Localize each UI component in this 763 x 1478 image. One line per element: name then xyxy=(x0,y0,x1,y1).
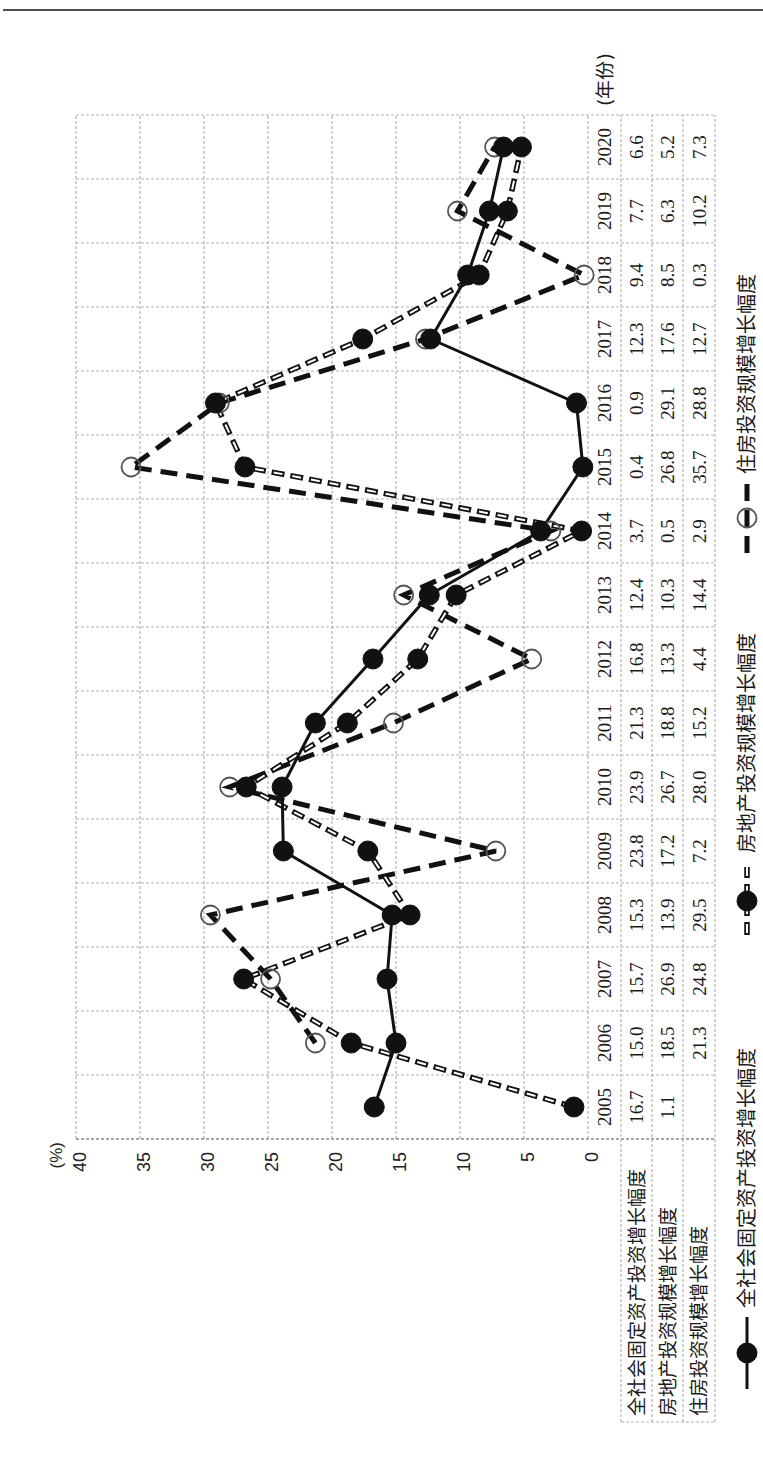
year-label: 2018 xyxy=(594,256,615,294)
table-cell: 15.2 xyxy=(689,706,710,739)
data-point-open-circle-icon xyxy=(384,714,403,733)
table-cell: 5.2 xyxy=(657,135,678,159)
table-cell: 12.3 xyxy=(626,322,647,355)
table-cell: 12.7 xyxy=(689,322,710,355)
table-cell: 26.7 xyxy=(657,770,678,803)
data-point-filled-circle-icon xyxy=(479,201,499,221)
data-point-filled-circle-icon xyxy=(421,329,441,349)
data-point-filled-circle-icon xyxy=(272,777,292,797)
table-cell: 0.5 xyxy=(657,519,678,543)
year-label: 2019 xyxy=(594,192,615,230)
y-axis-unit-label: (%) xyxy=(47,1142,66,1168)
y-tick-label: 25 xyxy=(262,1152,282,1172)
data-point-filled-circle-icon xyxy=(363,649,383,669)
table-cell: 8.5 xyxy=(657,263,678,287)
table-cell: 24.8 xyxy=(689,962,710,995)
table-row-label: 房地产投资规模增长幅度 xyxy=(657,1207,679,1416)
table-cell: 0.3 xyxy=(689,263,710,287)
table-cell: 26.9 xyxy=(657,962,678,995)
data-point-filled-circle-icon xyxy=(364,1097,384,1117)
table-cell: 15.0 xyxy=(626,1026,647,1059)
legend-label: 住房投资规模增长幅度 xyxy=(735,274,759,474)
table-cell: 35.7 xyxy=(689,450,710,483)
table-cell: 0.4 xyxy=(626,455,647,479)
legend-item-housing-investment: 住房投资规模增长幅度 xyxy=(735,274,759,553)
table-cell: 6.3 xyxy=(657,199,678,223)
data-point-filled-circle-icon xyxy=(419,585,439,605)
table-cell: 13.3 xyxy=(657,642,678,675)
legend-label: 全社会固定资产投资增长幅度 xyxy=(735,1048,759,1308)
table-cell: 12.4 xyxy=(626,578,647,612)
line-chart-with-data-table: 0510152025303540200520062007200820092010… xyxy=(0,0,763,1478)
data-point-filled-circle-icon xyxy=(236,777,256,797)
table-cell: 10.2 xyxy=(689,194,710,227)
y-tick-label: 20 xyxy=(326,1152,346,1172)
data-point-filled-circle-icon xyxy=(446,585,466,605)
data-point-filled-circle-icon xyxy=(353,329,373,349)
legend-item-real-estate-investment: 房地产投资规模增长幅度 xyxy=(735,633,759,935)
year-label: 2005 xyxy=(594,1088,615,1126)
y-tick-label: 0 xyxy=(582,1152,602,1162)
legend-filled-circle-icon xyxy=(737,1343,757,1363)
year-label: 2012 xyxy=(594,640,615,678)
table-cell: 2.9 xyxy=(689,519,710,543)
legend: 全社会固定资产投资增长幅度 房地产投资规模增长幅度 住房投资规模增长幅度 xyxy=(735,274,759,1389)
year-label: 2013 xyxy=(594,576,615,614)
table-cell: 29.1 xyxy=(657,386,678,419)
data-point-filled-circle-icon xyxy=(206,393,226,413)
y-tick-label: 40 xyxy=(70,1152,90,1172)
axis-and-table-text: 0510152025303540200520062007200820092010… xyxy=(70,128,710,1416)
legend-label: 房地产投资规模增长幅度 xyxy=(735,633,759,853)
table-cell: 17.2 xyxy=(657,834,678,867)
data-point-filled-circle-icon xyxy=(377,969,397,989)
year-label: 2020 xyxy=(594,128,615,166)
data-point-filled-circle-icon xyxy=(511,137,531,157)
table-cell: 7.2 xyxy=(689,839,710,863)
table-cell: 6.6 xyxy=(626,135,647,159)
table-cell: 23.8 xyxy=(626,834,647,867)
table-cell: 7.3 xyxy=(689,135,710,159)
data-point-filled-circle-icon xyxy=(566,393,586,413)
year-label: 2014 xyxy=(594,512,615,551)
year-label: 2006 xyxy=(594,1024,615,1062)
table-cell: 10.3 xyxy=(657,578,678,611)
data-point-filled-circle-icon xyxy=(469,265,489,285)
data-point-filled-circle-icon xyxy=(573,457,593,477)
open-circle-markers xyxy=(122,138,594,1053)
legend-filled-circle-icon xyxy=(737,891,757,911)
data-point-open-circle-icon xyxy=(522,650,541,669)
table-cell: 15.7 xyxy=(626,962,647,995)
data-point-filled-circle-icon xyxy=(234,969,254,989)
table-cell: 3.7 xyxy=(626,519,647,543)
year-label: 2007 xyxy=(594,960,615,998)
table-cell: 26.8 xyxy=(657,450,678,483)
data-point-filled-circle-icon xyxy=(358,841,378,861)
table-cell: 28.8 xyxy=(689,386,710,419)
table-cell: 1.1 xyxy=(657,1095,678,1119)
grid-and-table-lines xyxy=(76,115,715,1422)
table-cell: 4.4 xyxy=(689,647,710,671)
table-cell: 29.5 xyxy=(689,898,710,931)
rotated-figure: 0510152025303540200520062007200820092010… xyxy=(0,0,763,1478)
data-point-filled-circle-icon xyxy=(382,905,402,925)
table-cell: 7.7 xyxy=(626,199,647,223)
table-cell: 14.4 xyxy=(689,578,710,612)
data-point-filled-circle-icon xyxy=(400,905,420,925)
table-cell: 21.3 xyxy=(689,1026,710,1059)
data-point-filled-circle-icon xyxy=(408,649,428,669)
y-tick-label: 35 xyxy=(134,1152,154,1172)
year-label: 2010 xyxy=(594,768,615,806)
data-point-filled-circle-icon xyxy=(386,1033,406,1053)
series-line xyxy=(131,147,584,1043)
table-cell: 17.6 xyxy=(657,322,678,355)
year-label: 2015 xyxy=(594,448,615,486)
table-row-label: 住房投资规模增长幅度 xyxy=(688,1226,710,1416)
table-cell: 16.7 xyxy=(626,1090,647,1123)
data-point-filled-circle-icon xyxy=(273,841,293,861)
year-label: 2011 xyxy=(594,704,615,741)
y-tick-label: 30 xyxy=(198,1152,218,1172)
y-tick-label: 5 xyxy=(518,1152,538,1162)
year-label: 2008 xyxy=(594,896,615,934)
data-point-filled-circle-icon xyxy=(337,713,357,733)
table-row-label: 全社会固定资产投资增长幅度 xyxy=(626,1169,648,1416)
